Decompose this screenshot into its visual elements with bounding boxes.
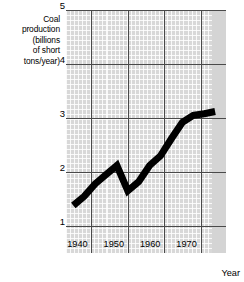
y-tick-4: 4: [56, 54, 65, 65]
x-tick-1960: 1960: [137, 239, 163, 249]
y-tick-2: 2: [56, 162, 65, 173]
y-tick-1: 1: [56, 216, 65, 227]
y-axis-label-line-3: (billions: [2, 35, 60, 45]
chart-root: Coal production (billions of short tons/…: [0, 0, 244, 282]
y-axis-label-line-2: production: [2, 24, 60, 34]
y-axis-label-line-1: Coal: [2, 14, 60, 24]
y-tick-3: 3: [56, 108, 65, 119]
y-axis-label: Coal production (billions of short tons/…: [2, 14, 60, 66]
plot-area: [66, 10, 226, 253]
y-axis-label-line-4: of short: [2, 45, 60, 55]
x-tick-1970: 1970: [174, 239, 200, 249]
y-axis-label-line-5: tons/year): [2, 56, 60, 66]
y-tick-5: 5: [56, 0, 65, 11]
coal-production-line: [66, 10, 226, 253]
x-tick-1940: 1940: [64, 239, 90, 249]
x-tick-1950: 1950: [101, 239, 127, 249]
x-axis-label: Year: [221, 268, 240, 278]
